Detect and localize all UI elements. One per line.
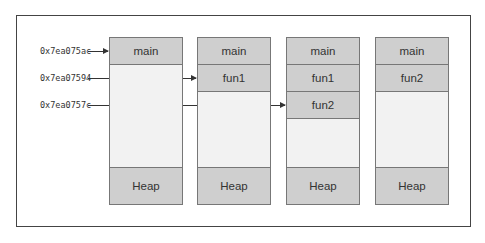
- stack-snapshot-4: main fun2 Heap: [375, 37, 449, 205]
- stack-frame-main: main: [197, 37, 271, 65]
- address-label-fun1: 0x7ea07594: [40, 73, 91, 83]
- heap-region: Heap: [197, 167, 271, 205]
- heap-region: Heap: [375, 167, 449, 205]
- heap-region: Heap: [286, 167, 360, 205]
- stack-frame-fun1: fun1: [197, 64, 271, 92]
- address-label-main: 0x7ea075ac: [40, 46, 91, 56]
- heap-region: Heap: [109, 167, 183, 205]
- stack-frame-fun2: fun2: [375, 64, 449, 92]
- address-label-fun2: 0x7ea0757c: [40, 100, 91, 110]
- arrow-main: [88, 51, 108, 52]
- stack-frame-fun2: fun2: [286, 91, 360, 119]
- stack-frame-fun1: fun1: [286, 64, 360, 92]
- stack-frame-main: main: [286, 37, 360, 65]
- stack-snapshot-2: main fun1 Heap: [197, 37, 271, 205]
- stack-frame-main: main: [375, 37, 449, 65]
- stack-snapshot-3: main fun1 fun2 Heap: [286, 37, 360, 205]
- stack-snapshot-1: main Heap: [109, 37, 183, 205]
- stack-frame-main: main: [109, 37, 183, 65]
